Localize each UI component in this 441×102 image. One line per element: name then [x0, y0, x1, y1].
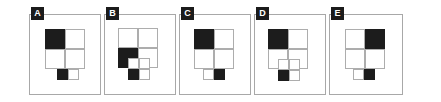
subbox-d-2x2: [278, 59, 300, 81]
quad-grid-a: [45, 29, 85, 69]
subbox-a-2x1: [57, 69, 79, 80]
subbox-cell-bottom-left-filled: [128, 69, 139, 80]
quad-cell-bottom-left-empty: [45, 49, 65, 69]
subbox-cell-right-empty: [68, 69, 79, 80]
panel-label-b: B: [106, 7, 119, 20]
quad-cell-top-left-empty: [118, 28, 138, 48]
panel-label-e: E: [331, 7, 344, 20]
subbox-cell-left-filled: [57, 69, 68, 80]
subbox-cell-bottom-right-empty: [139, 69, 150, 80]
subbox-c-2x1: [203, 69, 225, 80]
subbox-cell-top-left-empty: [128, 58, 139, 69]
quad-cell-bottom-right-empty: [65, 49, 85, 69]
panel-label-c: C: [181, 7, 194, 20]
subbox-cell-right-filled: [364, 69, 375, 80]
subbox-cell-left-empty: [203, 69, 214, 80]
quad-cell-bottom-left-empty: [194, 49, 214, 69]
quad-cell-top-left-empty: [345, 29, 365, 49]
quad-cell-top-right-empty: [138, 28, 158, 48]
subbox-e-2x1: [353, 69, 375, 80]
subbox-cell-left-empty: [353, 69, 364, 80]
quad-grid-c: [194, 29, 234, 69]
quad-cell-top-left-filled: [45, 29, 65, 49]
panel-label-a: A: [31, 7, 44, 20]
subbox-cell-bottom-left-filled: [278, 70, 289, 81]
subbox-cell-top-right-empty: [289, 59, 300, 70]
subbox-b-2x2: [128, 58, 150, 80]
quad-cell-top-right-empty: [214, 29, 234, 49]
panel-label-d: D: [256, 7, 269, 20]
subbox-cell-top-right-empty: [139, 58, 150, 69]
quad-cell-top-right-empty: [288, 29, 308, 49]
quad-cell-bottom-right-empty: [365, 49, 385, 69]
subbox-cell-top-left-empty: [278, 59, 289, 70]
quad-cell-top-right-empty: [65, 29, 85, 49]
quad-cell-top-left-filled: [268, 29, 288, 49]
quad-cell-top-left-filled: [194, 29, 214, 49]
quad-grid-e: [345, 29, 385, 69]
quad-cell-top-right-filled: [365, 29, 385, 49]
subbox-cell-bottom-right-empty: [289, 70, 300, 81]
multi-panel-diagram: ABCDE: [0, 0, 441, 102]
subbox-cell-right-filled: [214, 69, 225, 80]
quad-cell-bottom-left-empty: [345, 49, 365, 69]
quad-cell-bottom-right-empty: [214, 49, 234, 69]
